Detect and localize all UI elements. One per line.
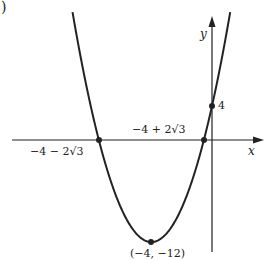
vertex-label: (−4, −12) (130, 248, 185, 259)
left-root-point (96, 137, 102, 143)
right-root-label: −4 + 2√3 (132, 124, 185, 135)
y-intercept-label: 4 (218, 100, 225, 111)
left-root-label: −4 − 2√3 (30, 146, 83, 157)
part-marker: ) (1, 0, 6, 14)
y-intercept-point (209, 103, 215, 109)
vertex-point (148, 239, 154, 245)
right-root-point (201, 137, 207, 143)
x-axis-label: x (248, 145, 255, 157)
y-axis-label: y (200, 28, 207, 40)
y-axis-arrow-icon (209, 16, 216, 27)
x-axis-arrow-icon (253, 137, 264, 144)
